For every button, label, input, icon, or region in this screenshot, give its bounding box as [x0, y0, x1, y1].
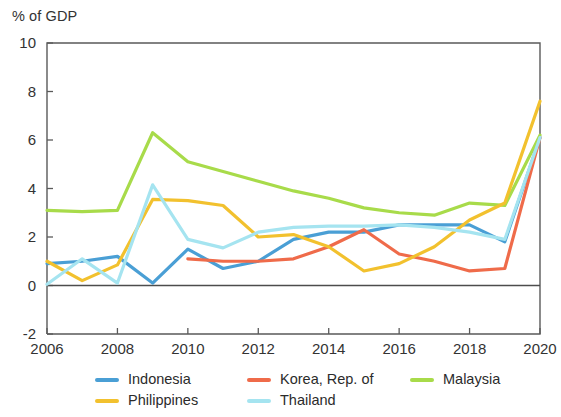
plot-border — [47, 43, 540, 334]
y-tick-label: 10 — [2, 34, 36, 51]
legend-label: Thailand — [280, 393, 336, 408]
y-tick-label: 2 — [2, 228, 36, 245]
legend-label: Philippines — [128, 393, 198, 408]
legend-row-2: PhilippinesThailand — [95, 390, 535, 411]
legend-label: Korea, Rep. of — [280, 372, 374, 387]
legend-swatch-icon — [247, 399, 271, 403]
legend-swatch-icon — [95, 399, 119, 403]
y-tick-label: 0 — [2, 277, 36, 294]
legend-item-thailand[interactable]: Thailand — [247, 390, 336, 411]
y-tick-label: 6 — [2, 131, 36, 148]
x-tick-label: 2010 — [163, 340, 213, 357]
y-tick-label: 4 — [2, 180, 36, 197]
tick-marks — [47, 43, 540, 334]
x-tick-label: 2018 — [445, 340, 495, 357]
legend-label: Indonesia — [128, 372, 191, 387]
legend-item-malaysia[interactable]: Malaysia — [410, 369, 500, 390]
legend-swatch-icon — [247, 378, 271, 382]
x-tick-label: 2020 — [515, 340, 561, 357]
legend-item-indonesia[interactable]: Indonesia — [95, 369, 191, 390]
chart-legend: IndonesiaKorea, Rep. ofMalaysia Philippi… — [95, 369, 535, 413]
series-lines — [47, 101, 540, 284]
legend-label: Malaysia — [443, 372, 500, 387]
x-tick-label: 2014 — [304, 340, 354, 357]
axis-frame — [47, 43, 540, 334]
legend-row-1: IndonesiaKorea, Rep. ofMalaysia — [95, 369, 535, 390]
x-tick-label: 2012 — [233, 340, 283, 357]
x-tick-label: 2008 — [92, 340, 142, 357]
legend-swatch-icon — [410, 378, 434, 382]
legend-item-korea-rep-of[interactable]: Korea, Rep. of — [247, 369, 374, 390]
legend-item-philippines[interactable]: Philippines — [95, 390, 198, 411]
x-tick-label: 2006 — [22, 340, 72, 357]
y-tick-label: 8 — [2, 83, 36, 100]
x-tick-label: 2016 — [374, 340, 424, 357]
series-line-thailand — [47, 138, 540, 285]
legend-swatch-icon — [95, 378, 119, 382]
series-line-malaysia — [47, 133, 540, 215]
